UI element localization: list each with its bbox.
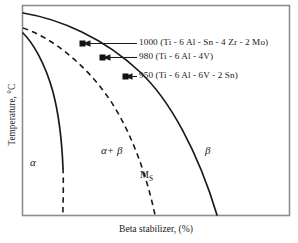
annotation-label-980: 980 (Ti - 6 Al - 4V) [139,52,213,61]
annotation-label-1000: 1000 (Ti - 6 Al - Sn - 4 Zr - 2 Mo) [139,38,268,47]
ms-label-subscript: S [149,174,153,183]
data-marker-1000 [80,41,86,47]
alpha-boundary-solid [23,33,63,168]
annotation-label-950: 950 (Ti - 6 Al - 6V - 2 Sn) [139,71,238,80]
alpha-boundary-dashed-tail [63,168,64,215]
phase-label-alpha: α [30,157,36,168]
phase-label-ms: MS [140,170,153,182]
y-axis-label: Temperature, °C [8,55,17,175]
x-axis-label: Beta stabilizer, (%) [22,224,290,234]
phase-label-alpha-beta: α+ β [101,145,122,156]
ms-dashed-curve [23,28,155,215]
ms-label-main: M [140,169,149,180]
phase-label-beta: β [205,145,210,156]
data-marker-980 [100,55,106,61]
phase-diagram-figure: Temperature, °C Beta stabilizer, (%) 100… [0,0,298,243]
data-marker-950 [123,74,129,80]
annotation-leader-1000 [83,40,138,47]
